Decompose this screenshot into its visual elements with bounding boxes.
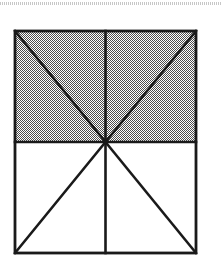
page-canvas: Rectangle divided into eight triangles b…: [0, 0, 221, 275]
geometric-figure: Rectangle divided into eight triangles b…: [0, 0, 221, 275]
figure-svg: Rectangle divided into eight triangles b…: [0, 0, 221, 275]
